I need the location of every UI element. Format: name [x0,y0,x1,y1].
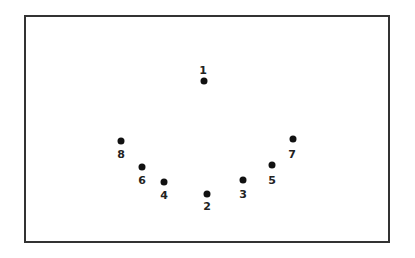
point-2-label: 2 [203,201,211,212]
point-8-label: 8 [117,149,125,160]
point-7-label: 7 [288,149,296,160]
point-5-label: 5 [268,175,276,186]
point-4-dot [161,179,168,186]
point-3-dot [240,177,247,184]
point-3-label: 3 [239,189,247,200]
point-1-label: 1 [199,65,207,76]
point-6-label: 6 [138,175,146,186]
point-5-dot [269,162,276,169]
point-4-label: 4 [160,190,168,201]
point-6-dot [139,164,146,171]
point-1-dot [201,78,208,85]
point-2-dot [204,191,211,198]
point-8-dot [118,138,125,145]
point-7-dot [290,136,297,143]
